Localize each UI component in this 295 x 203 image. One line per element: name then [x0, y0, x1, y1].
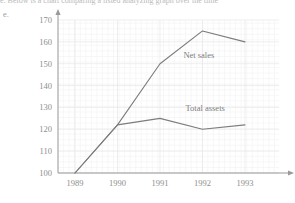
- x-tick-label: 1990: [109, 178, 126, 188]
- y-tick-label: 100: [39, 168, 52, 178]
- y-tick-label: 120: [39, 124, 52, 134]
- chart-container: e. Below is a chart comparing a listed a…: [0, 0, 295, 203]
- y-tick-label: 130: [39, 102, 52, 112]
- y-tick-label: 110: [40, 146, 52, 156]
- series-annotations: Net salesTotal assets: [183, 50, 224, 112]
- series-label: Net sales: [183, 50, 214, 60]
- y-axis-tick-labels: 100110120130140150160170: [39, 15, 52, 178]
- y-tick-label: 160: [39, 37, 52, 47]
- y-tick-label: 150: [39, 59, 52, 69]
- series-label: Total assets: [186, 103, 225, 113]
- line-chart: 100110120130140150160170 198919901991199…: [0, 0, 295, 203]
- y-tick-label: 140: [39, 81, 52, 91]
- x-axis-tick-labels: 19891990199119921993: [67, 178, 254, 188]
- x-tick-label: 1992: [194, 178, 211, 188]
- grid-minor: [58, 20, 279, 173]
- y-tick-label: 170: [39, 15, 52, 25]
- x-tick-label: 1991: [152, 178, 169, 188]
- x-tick-label: 1989: [67, 178, 84, 188]
- x-tick-label: 1993: [237, 178, 254, 188]
